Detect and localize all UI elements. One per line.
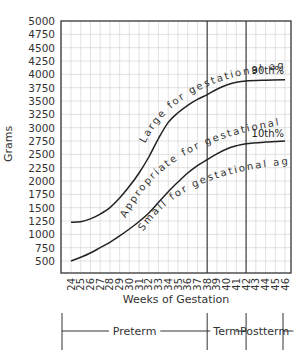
y-axis-ticks: 5007501000125015001750200022502500275030… xyxy=(28,15,55,267)
x-axis-title: Weeks of Gestation xyxy=(123,293,230,306)
y-tick-label: 4750 xyxy=(28,28,55,40)
y-axis-title: Grams xyxy=(2,126,15,163)
y-tick-label: 3000 xyxy=(28,122,55,134)
y-tick-label: 1250 xyxy=(28,215,55,227)
y-tick-label: 3500 xyxy=(28,95,55,107)
y-tick-label: 2250 xyxy=(28,162,55,174)
y-tick-label: 1500 xyxy=(28,202,55,214)
y-tick-label: 2500 xyxy=(28,148,55,160)
y-tick-label: 4250 xyxy=(28,55,55,67)
y-tick-label: 4500 xyxy=(28,42,55,54)
y-tick-label: 4000 xyxy=(28,68,55,80)
y-tick-label: 1000 xyxy=(28,228,55,240)
y-tick-label: 2000 xyxy=(28,175,55,187)
y-tick-label: 500 xyxy=(35,255,55,267)
label-90th-percentile: 90th% xyxy=(252,65,285,76)
x-axis-ticks: 2425262728293031323334353637383940414243… xyxy=(66,278,291,291)
y-tick-label: 3250 xyxy=(28,108,55,120)
period-bar: PretermTermPostterm xyxy=(62,313,293,350)
period-preterm: Preterm xyxy=(113,325,157,338)
plot-frame xyxy=(61,21,291,273)
y-tick-label: 3750 xyxy=(28,82,55,94)
x-tick-label: 46 xyxy=(280,278,291,291)
y-tick-label: 750 xyxy=(35,242,55,254)
y-tick-label: 5000 xyxy=(28,15,55,27)
growth-chart: 5007501000125015001750200022502500275030… xyxy=(0,0,308,361)
y-tick-label: 2750 xyxy=(28,135,55,147)
period-postterm: Postterm xyxy=(240,325,289,338)
label-10th-percentile: 10th% xyxy=(252,128,285,139)
grid xyxy=(61,21,291,273)
y-tick-label: 1750 xyxy=(28,188,55,200)
